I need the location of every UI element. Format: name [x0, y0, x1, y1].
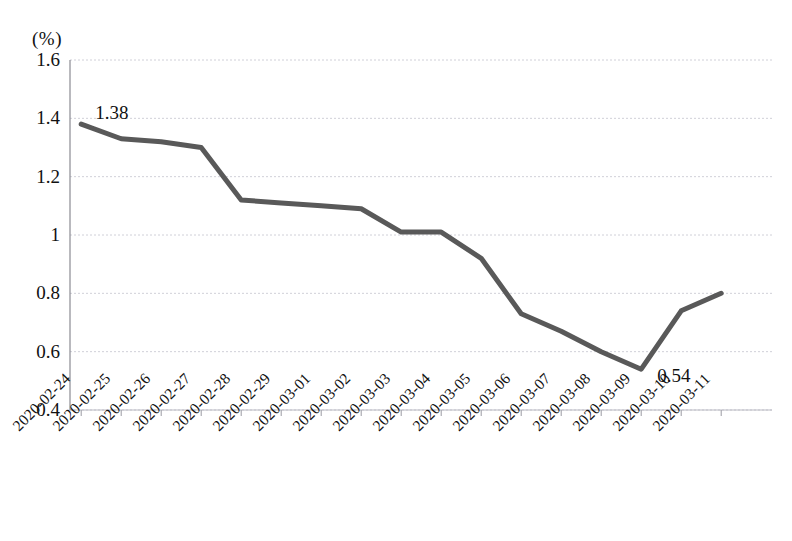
y-axis-tick-label: 1 [14, 225, 60, 244]
data-series-line [70, 60, 772, 410]
y-axis-unit-label: (%) [32, 28, 62, 50]
line-chart: (%) 1.61.41.210.80.60.4 2020-02-242020-0… [0, 0, 792, 541]
y-axis-tick-label: 1.2 [14, 167, 60, 186]
figure-caption [0, 524, 792, 541]
y-axis-tick-label: 0.6 [14, 342, 60, 361]
series-polyline [81, 124, 721, 369]
y-axis-tick-label: 1.4 [14, 108, 60, 127]
data-point-label: 1.38 [95, 102, 128, 124]
plot-area [70, 60, 772, 410]
y-axis-tick-label: 0.8 [14, 283, 60, 302]
y-axis-tick-label: 1.6 [14, 50, 60, 69]
data-point-label: 0.54 [657, 365, 690, 387]
